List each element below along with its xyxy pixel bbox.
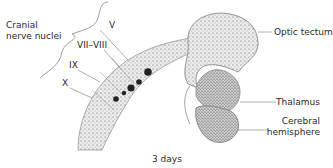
label-thalamus: Thalamus: [276, 97, 320, 107]
group-label-nerve-nuclei: nerve nuclei: [6, 31, 62, 41]
label-cerebral: Cerebral: [282, 116, 320, 126]
cerebral-hemisphere: [196, 106, 239, 143]
nerve-label-x: X: [62, 78, 68, 88]
caption-3-days: 3 days: [152, 154, 182, 164]
nerve-label-vii-viii: VII–VIII: [77, 40, 107, 50]
nerve-label-ix: IX: [69, 60, 78, 70]
label-hemisphere: hemisphere: [267, 127, 320, 137]
group-label-cranial: Cranial: [6, 20, 38, 30]
label-optic-tectum: Optic tectum: [274, 27, 333, 37]
nerve-label-v: V: [109, 20, 115, 30]
